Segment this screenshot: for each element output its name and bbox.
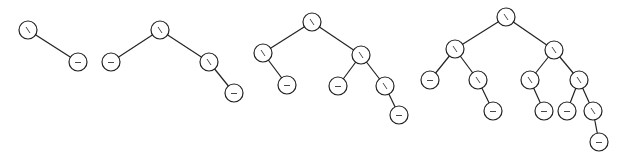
tree-node (521, 71, 539, 89)
tree-node (421, 71, 439, 89)
tree-node (535, 102, 553, 120)
tree-node (352, 46, 370, 64)
tree-node (69, 53, 87, 71)
tree-node (590, 133, 608, 151)
tree-node (570, 71, 588, 89)
tree-node (329, 77, 347, 95)
tree-node (497, 8, 515, 26)
tree-node (584, 102, 602, 120)
tree-node (390, 106, 408, 124)
tree-node (303, 13, 321, 31)
tree-node (200, 53, 218, 71)
tree-node (545, 41, 563, 59)
tree-node (254, 44, 272, 62)
tree-node (151, 21, 169, 39)
tree-node (558, 102, 576, 120)
tree-node (446, 40, 464, 58)
tree-node (225, 84, 243, 102)
tree-4 (421, 8, 608, 151)
tree-2 (102, 21, 243, 102)
tree-node (102, 53, 120, 71)
trees-canvas (0, 0, 627, 159)
tree-node (484, 102, 502, 120)
tree-node (278, 76, 296, 94)
tree-node (19, 21, 37, 39)
tree-node (376, 77, 394, 95)
tree-3 (254, 13, 408, 124)
tree-node (469, 71, 487, 89)
tree-1 (19, 21, 87, 71)
